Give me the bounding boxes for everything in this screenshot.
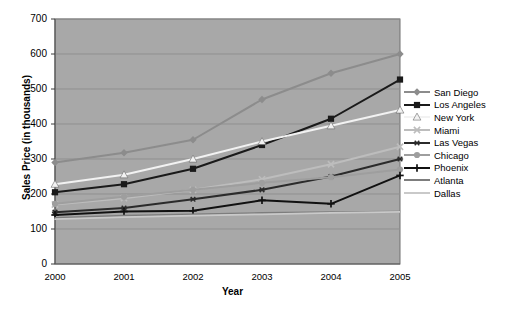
- y-tick-label: 300: [13, 153, 47, 164]
- legend-item[interactable]: Dallas: [404, 187, 516, 200]
- legend-swatch-triangle-icon: [404, 111, 430, 123]
- legend-swatch-star-icon: [404, 137, 430, 149]
- legend-swatch-cross-icon: [404, 124, 430, 136]
- legend-item[interactable]: Phoenix: [404, 162, 516, 175]
- legend-swatch-circle-icon: [404, 149, 430, 161]
- legend-item[interactable]: New York: [404, 111, 516, 124]
- plot-area-background: [55, 19, 400, 264]
- y-axis-title: Sales Price (in thousands): [21, 48, 32, 228]
- x-axis-title: Year: [55, 286, 410, 297]
- legend-swatch-diamond-icon: [404, 86, 430, 98]
- x-tick-label: 2002: [173, 271, 213, 282]
- legend-item[interactable]: Atlanta: [404, 174, 516, 187]
- legend-item[interactable]: San Diego: [404, 86, 516, 99]
- y-tick-label: 700: [13, 13, 47, 24]
- legend-label: Miami: [430, 125, 459, 136]
- y-tick-label: 100: [13, 223, 47, 234]
- legend-swatch-none-icon: [404, 174, 430, 186]
- sales-price-line-chart: Sales Price (in thousands) Year 01002003…: [0, 0, 518, 313]
- legend-label: Las Vegas: [430, 137, 478, 148]
- legend-label: Phoenix: [430, 162, 468, 173]
- legend-swatch-plus-icon: [404, 162, 430, 174]
- x-tick-label: 2003: [242, 271, 282, 282]
- legend-swatch-square-icon: [404, 99, 430, 111]
- chart-legend: San DiegoLos AngelesNew YorkMiamiLas Veg…: [404, 86, 516, 199]
- x-tick-label: 2005: [380, 271, 420, 282]
- legend-label: San Diego: [430, 87, 478, 98]
- legend-item[interactable]: Miami: [404, 124, 516, 137]
- legend-label: Los Angeles: [430, 99, 486, 110]
- y-tick-label: 600: [13, 48, 47, 59]
- x-tick-label: 2000: [35, 271, 75, 282]
- legend-label: Chicago: [430, 150, 469, 161]
- legend-item[interactable]: Los Angeles: [404, 99, 516, 112]
- legend-swatch-none-icon: [404, 187, 430, 199]
- y-tick-label: 400: [13, 118, 47, 129]
- x-tick-label: 2004: [311, 271, 351, 282]
- legend-item[interactable]: Las Vegas: [404, 136, 516, 149]
- legend-item[interactable]: Chicago: [404, 149, 516, 162]
- legend-label: New York: [430, 112, 474, 123]
- legend-label: Atlanta: [430, 175, 464, 186]
- y-tick-label: 200: [13, 188, 47, 199]
- x-tick-label: 2001: [104, 271, 144, 282]
- y-tick-label: 500: [13, 83, 47, 94]
- y-tick-label: 0: [13, 258, 47, 269]
- legend-label: Dallas: [430, 188, 460, 199]
